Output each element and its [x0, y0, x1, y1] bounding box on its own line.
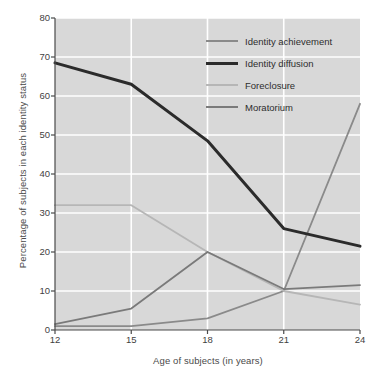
- legend-line-icon: [206, 58, 238, 69]
- x-tick-label: 18: [193, 334, 223, 345]
- x-tick-label: 24: [345, 334, 375, 345]
- x-tick-label: 12: [40, 334, 70, 345]
- legend-item-1: Identity diffusion: [206, 52, 356, 74]
- legend-item-2: Foreclosure: [206, 74, 356, 96]
- legend-item-0: Identity achievement: [206, 30, 356, 52]
- legend-label: Moratorium: [238, 102, 293, 113]
- x-tick-label: 15: [116, 334, 146, 345]
- legend-label: Identity diffusion: [238, 58, 313, 69]
- legend-item-3: Moratorium: [206, 96, 356, 118]
- legend-label: Foreclosure: [238, 80, 295, 91]
- legend-line-icon: [206, 36, 238, 47]
- legend-line-icon: [206, 102, 238, 113]
- x-tick-label: 21: [269, 334, 299, 345]
- x-axis-title: Age of subjects (in years): [55, 355, 361, 366]
- legend-line-icon: [206, 80, 238, 91]
- chart-legend: Identity achievementIdentity diffusionFo…: [206, 30, 356, 118]
- chart-figure: Percentage of subjects in each identity …: [0, 0, 381, 382]
- legend-label: Identity achievement: [238, 36, 332, 47]
